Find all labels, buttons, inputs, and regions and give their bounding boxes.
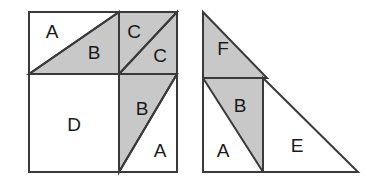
label-left-C-lower: C xyxy=(153,45,167,66)
label-left-A-bottom: A xyxy=(154,140,167,161)
label-left-A-top: A xyxy=(46,21,59,42)
label-right-A: A xyxy=(217,140,230,161)
label-left-B-bottom: B xyxy=(136,98,149,119)
label-right-E: E xyxy=(291,135,304,156)
label-right-B: B xyxy=(234,95,247,116)
label-right-F: F xyxy=(217,38,229,59)
label-left-B-top: B xyxy=(88,42,101,63)
label-left-D: D xyxy=(67,114,81,135)
square-figure: A B C C D B A xyxy=(29,12,177,172)
geometry-figure: A B C C D B A F B A E xyxy=(0,0,373,181)
label-left-C-upper: C xyxy=(127,21,141,42)
triangle-figure: F B A E xyxy=(203,12,358,172)
geometry-canvas: A B C C D B A F B A E xyxy=(0,0,373,181)
